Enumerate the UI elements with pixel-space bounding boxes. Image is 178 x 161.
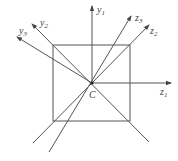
label-z3: z3 bbox=[134, 12, 143, 25]
center-point bbox=[91, 82, 94, 85]
axis-z3 bbox=[49, 16, 131, 152]
label-center-c: C bbox=[89, 89, 96, 100]
label-y2: y2 bbox=[39, 17, 48, 30]
axes-diagram: y1 z1 y2 y3 z2 z3 C bbox=[0, 0, 178, 161]
label-z2: z2 bbox=[149, 25, 158, 38]
label-z1: z1 bbox=[159, 86, 167, 99]
label-y1: y1 bbox=[96, 4, 105, 17]
axis-y3 bbox=[17, 37, 92, 83]
label-y3: y3 bbox=[18, 25, 27, 38]
